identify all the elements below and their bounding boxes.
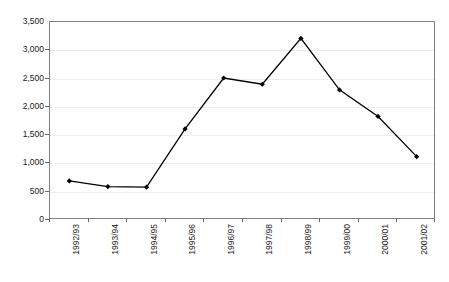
x-tick-label: 1993/94 [111, 224, 120, 255]
x-tick-mark [396, 218, 397, 222]
x-tick-mark [165, 218, 166, 222]
x-tick-mark [203, 218, 204, 222]
x-tick-mark [281, 218, 282, 222]
x-tick-label: 2001/02 [420, 224, 429, 255]
x-tick-mark [88, 218, 89, 222]
x-tick-mark [49, 218, 50, 222]
chart-figure: 05001,0001,5002,0002,5003,0003,500 1992/… [0, 0, 449, 282]
y-axis: 05001,0001,5002,0002,5003,0003,500 [0, 0, 44, 240]
y-tick-label: 3,000 [0, 45, 44, 54]
data-point-marker [105, 184, 110, 189]
y-tick-label: 1,500 [0, 130, 44, 139]
x-tick-mark [126, 218, 127, 222]
x-tick-mark [242, 218, 243, 222]
y-tick-label: 0 [0, 215, 44, 224]
x-tick-label: 1994/95 [150, 224, 159, 255]
x-tick-mark [319, 218, 320, 222]
data-point-marker [67, 178, 72, 183]
x-tick-label: 2000/01 [381, 224, 390, 255]
y-tick-label: 1,000 [0, 158, 44, 167]
y-tick-label: 2,500 [0, 73, 44, 82]
x-tick-label: 1997/98 [265, 224, 274, 255]
x-tick-label: 1999/00 [343, 224, 352, 255]
x-tick-mark [358, 218, 359, 222]
plot-area [49, 21, 435, 219]
x-tick-mark [434, 218, 435, 222]
chart-title [6, 0, 446, 3]
line-series [50, 22, 436, 220]
series-line [69, 38, 416, 187]
x-tick-label: 1996/97 [227, 224, 236, 255]
x-axis: 1992/931993/941994/951995/961996/971997/… [49, 222, 435, 280]
y-tick-label: 2,000 [0, 101, 44, 110]
y-tick-label: 500 [0, 186, 44, 195]
x-tick-label: 1998/99 [304, 224, 313, 255]
x-tick-label: 1992/93 [72, 224, 81, 255]
x-tick-label: 1995/96 [188, 224, 197, 255]
y-tick-label: 3,500 [0, 17, 44, 26]
